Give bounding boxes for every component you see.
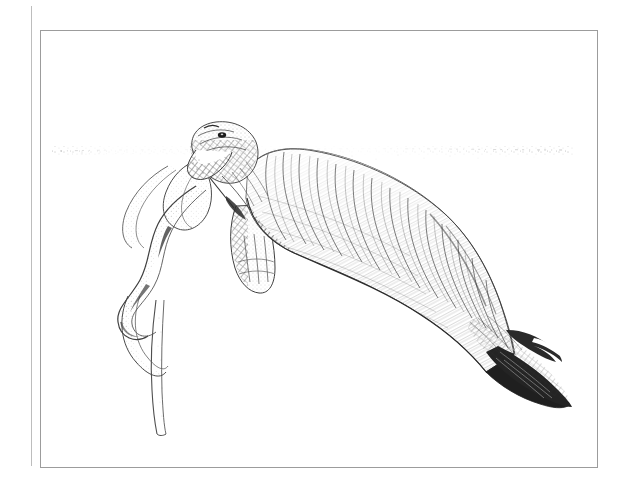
illustration-page: [0, 0, 629, 495]
dugong-illustration-canvas: [0, 0, 629, 495]
